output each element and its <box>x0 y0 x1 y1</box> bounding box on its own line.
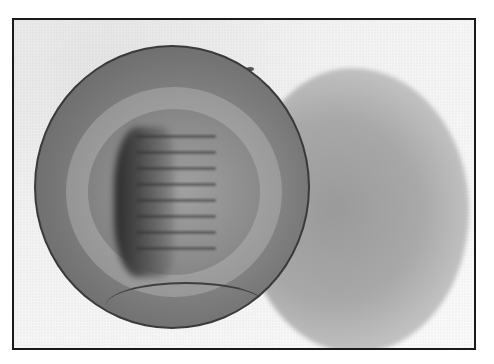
image-frame <box>12 18 476 350</box>
segment-band <box>136 215 216 218</box>
light-ring <box>66 87 282 297</box>
segment-band <box>136 151 216 154</box>
segment-band <box>136 167 216 170</box>
segment-band <box>136 231 216 234</box>
segment-band <box>136 199 216 202</box>
dorsal-groove <box>114 127 174 277</box>
segment-band <box>136 183 216 186</box>
lower-fold <box>106 282 266 329</box>
segment-band <box>136 247 216 250</box>
segment-band <box>136 135 216 138</box>
embryo-sphere <box>34 45 310 329</box>
